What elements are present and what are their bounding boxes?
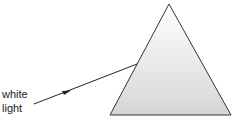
ray-arrow-icon <box>62 91 71 96</box>
prism-diagram <box>0 0 236 124</box>
prism-triangle <box>110 4 231 115</box>
label-white: white <box>2 88 28 100</box>
label-light: light <box>2 102 22 114</box>
